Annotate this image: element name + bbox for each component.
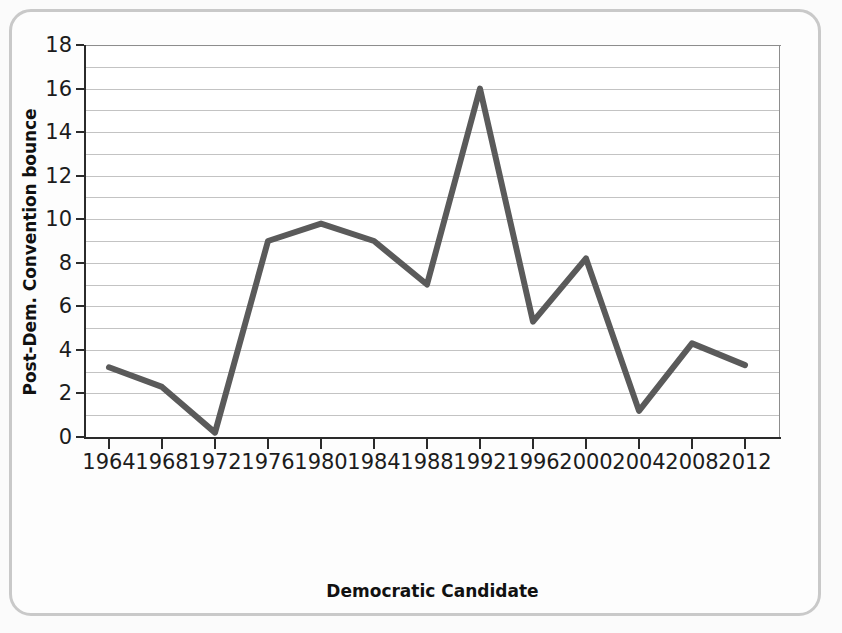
x-axis-tick: [320, 439, 322, 449]
y-axis-tick: [76, 175, 84, 177]
x-axis-tick: [214, 439, 216, 449]
x-axis-tick: [744, 439, 746, 449]
y-axis-tick: [76, 218, 84, 220]
x-axis-tick: [108, 439, 110, 449]
y-axis-tick: [76, 44, 84, 46]
x-axis-tick: [161, 439, 163, 449]
chart-figure: 024681012141618 Post-Dem. Convention bou…: [0, 0, 842, 633]
y-axis-tick: [76, 436, 84, 438]
y-axis-tick: [76, 392, 84, 394]
x-axis-year-label: 2012: [705, 452, 785, 473]
x-axis-tick: [638, 439, 640, 449]
x-axis-tick: [373, 439, 375, 449]
data-series-line: [84, 45, 781, 439]
x-axis-tick: [479, 439, 481, 449]
y-axis-tick: [76, 305, 84, 307]
x-axis-title: Democratic Candidate: [84, 581, 781, 601]
y-axis-tick: [76, 262, 84, 264]
y-axis-tick: [76, 349, 84, 351]
bounce-line: [109, 89, 745, 433]
x-axis-tick: [426, 439, 428, 449]
x-axis-tick: [267, 439, 269, 449]
x-axis-tick: [691, 439, 693, 449]
y-axis-title: Post-Dem. Convention bounce: [20, 72, 40, 432]
y-axis-tick: [76, 88, 84, 90]
y-axis-tick: [76, 131, 84, 133]
y-axis-tick-label: 18: [32, 35, 72, 56]
x-axis-tick: [532, 439, 534, 449]
x-axis-tick: [585, 439, 587, 449]
